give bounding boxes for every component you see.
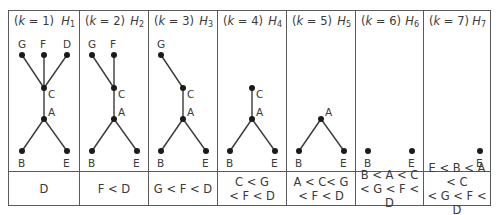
tree-graph: BE xyxy=(356,11,424,171)
tree-graph: G CA BE xyxy=(149,11,218,171)
svg-text:A: A xyxy=(118,106,126,118)
svg-text:F: F xyxy=(40,38,46,50)
column-k6: (k = 6) H6 BE B < A < C< G < F < D xyxy=(355,11,423,205)
svg-text:E: E xyxy=(133,157,140,169)
ordering-cell: F < D xyxy=(80,173,148,205)
ordering-cell: A < C< G< F < D xyxy=(287,173,355,205)
svg-text:D: D xyxy=(63,38,71,50)
svg-text:G: G xyxy=(18,38,26,50)
ordering-cell: E < B < A < C< G < F < D xyxy=(424,173,490,205)
ordering-cell: D xyxy=(9,173,79,205)
svg-text:C: C xyxy=(48,88,55,100)
column-k7: (k = 7) H7 E E < B < A < C< G < F < D xyxy=(423,11,490,205)
ordering-cell: C < G< F < D xyxy=(218,173,286,205)
svg-text:E: E xyxy=(271,157,278,169)
svg-text:C: C xyxy=(256,88,263,100)
svg-text:B: B xyxy=(295,157,302,169)
tree-graph: A BE xyxy=(287,11,356,171)
elimination-table: (k = 1) H1 GFD CA BE D (k = 2) H2 xyxy=(8,10,491,206)
svg-text:B: B xyxy=(226,157,233,169)
svg-text:A: A xyxy=(325,106,333,118)
column-k2: (k = 2) H2 GF CA BE F < D xyxy=(79,11,148,205)
svg-text:B: B xyxy=(157,157,164,169)
ordering-cell: G < F < D xyxy=(149,173,217,205)
column-k5: (k = 5) H5 A BE A < C< G< F < D xyxy=(286,11,355,205)
svg-text:A: A xyxy=(256,106,264,118)
tree-graph: GFD CA BE xyxy=(9,11,79,171)
svg-text:B: B xyxy=(88,157,95,169)
column-k1: (k = 1) H1 GFD CA BE D xyxy=(9,11,79,205)
svg-text:G: G xyxy=(157,38,165,50)
svg-text:C: C xyxy=(118,88,125,100)
svg-text:G: G xyxy=(88,38,96,50)
svg-text:E: E xyxy=(202,157,209,169)
tree-graph: E xyxy=(424,11,491,171)
svg-text:F: F xyxy=(110,38,116,50)
svg-text:E: E xyxy=(340,157,347,169)
svg-text:E: E xyxy=(63,157,70,169)
svg-text:A: A xyxy=(187,106,195,118)
svg-text:C: C xyxy=(187,88,194,100)
column-k4: (k = 4) H4 CA BE C < G< F < D xyxy=(217,11,286,205)
svg-text:B: B xyxy=(18,157,25,169)
tree-graph: GF CA BE xyxy=(80,11,149,171)
ordering-cell: B < A < C< G < F < D xyxy=(356,173,423,205)
svg-text:A: A xyxy=(48,106,56,118)
column-k3: (k = 3) H3 G CA BE G < F < D xyxy=(148,11,217,205)
tree-graph: CA BE xyxy=(218,11,287,171)
